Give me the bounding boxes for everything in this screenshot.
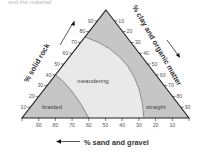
bottom-tick-label: 60 — [86, 122, 92, 128]
bottom-tick-label: 30 — [136, 122, 142, 128]
right-tick-label: 40 — [143, 50, 149, 56]
right-tick-label: 20 — [127, 28, 133, 34]
left-tick-label: 20 — [29, 93, 35, 99]
bottom-tick-label: 10 — [169, 122, 175, 128]
bottom-axis-title: % sand and gravel — [84, 138, 149, 147]
right-tick-label: 50 — [152, 61, 158, 67]
left-tick-label: 40 — [46, 72, 52, 78]
right-tick-label: 60 — [160, 72, 166, 78]
top-caption-fragment: and the material — [8, 0, 51, 5]
left-tick-label: 50 — [54, 61, 60, 67]
region-label-meandering: meandering — [77, 78, 109, 84]
bottom-tick-label: 40 — [119, 122, 125, 128]
left-tick-label: 60 — [63, 50, 69, 56]
bottom-tick-label: 20 — [153, 122, 159, 128]
bottom-axis-ticks: 908070605040302010 — [22, 118, 189, 128]
bottom-tick-label: 50 — [103, 122, 109, 128]
region-label-straight: straight — [146, 104, 166, 110]
right-tick-label: 90 — [185, 104, 191, 110]
bottom-tick-label: 90 — [36, 122, 42, 128]
region-label-braided: braided — [42, 104, 62, 110]
bottom-tick-label: 70 — [69, 122, 75, 128]
right-tick-label: 10 — [118, 18, 124, 24]
right-tick-label: 30 — [135, 39, 141, 45]
bottom-tick-label: 80 — [53, 122, 59, 128]
right-tick-label: 80 — [176, 93, 182, 99]
left-tick-label: 80 — [79, 28, 85, 34]
bottom-axis-arrow-icon — [56, 139, 80, 144]
right-tick-label: 70 — [168, 82, 174, 88]
left-tick-label: 30 — [37, 82, 43, 88]
ternary-diagram: and the material 102030405060708090 1020… — [0, 0, 211, 153]
left-tick-label: 10 — [21, 104, 27, 110]
left-tick-label: 90 — [88, 18, 94, 24]
left-tick-label: 70 — [71, 39, 77, 45]
